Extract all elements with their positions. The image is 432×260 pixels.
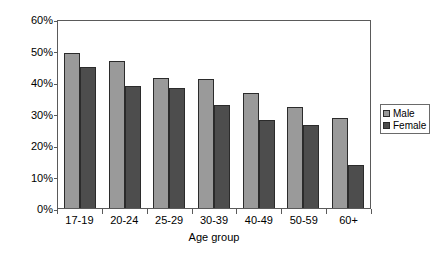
bar-male-25-29[interactable] [153, 78, 169, 208]
x-axis-tick-mark [371, 209, 372, 214]
bar-male-17-19[interactable] [64, 53, 80, 208]
y-axis-tick-label: 50% [14, 47, 58, 58]
bar-female-20-24[interactable] [125, 86, 141, 208]
legend-item-male[interactable]: Male [383, 107, 426, 119]
bar-group [58, 21, 103, 208]
x-axis-tick-label: 40-49 [236, 214, 281, 227]
bar-group [147, 21, 192, 208]
legend-swatch-icon [383, 122, 390, 129]
bar-female-40-49[interactable] [259, 120, 275, 208]
bar-male-30-39[interactable] [198, 79, 214, 208]
legend-item-female[interactable]: Female [383, 119, 426, 131]
bars-layer [58, 21, 370, 208]
x-axis-tick-label: 25-29 [147, 214, 192, 227]
x-axis-tick-label: 60+ [326, 214, 371, 227]
plot-area: Pass rate 0%10%20%30%40%50%60% [57, 20, 371, 209]
x-axis-tick-labels: 17-1920-2425-2930-3940-4950-5960+ [57, 214, 371, 227]
y-axis-tick-label: 20% [14, 141, 58, 152]
bar-female-50-59[interactable] [303, 125, 319, 208]
y-axis-tick-label: 60% [14, 15, 58, 26]
bar-group [325, 21, 370, 208]
x-axis-tick-label: 50-59 [281, 214, 326, 227]
bar-group [281, 21, 326, 208]
bar-group [192, 21, 237, 208]
bar-male-60+[interactable] [332, 118, 348, 208]
y-axis-tick-label: 0% [14, 204, 58, 215]
bar-female-25-29[interactable] [169, 88, 185, 208]
bar-female-17-19[interactable] [80, 67, 96, 208]
bar-group [236, 21, 281, 208]
legend: MaleFemale [380, 104, 430, 134]
legend-label: Male [393, 108, 415, 119]
x-axis-tick-label: 17-19 [57, 214, 102, 227]
legend-swatch-icon [383, 110, 390, 117]
bar-female-60+[interactable] [348, 165, 364, 208]
bar-male-40-49[interactable] [243, 93, 259, 208]
x-axis-tick-label: 30-39 [192, 214, 237, 227]
x-axis-tick-label: 20-24 [102, 214, 147, 227]
x-axis-title: Age group [57, 231, 371, 244]
bar-group [103, 21, 148, 208]
legend-label: Female [393, 120, 426, 131]
bar-male-50-59[interactable] [287, 107, 303, 208]
bar-female-30-39[interactable] [214, 105, 230, 208]
bar-male-20-24[interactable] [109, 61, 125, 208]
y-axis-tick-label: 10% [14, 173, 58, 184]
y-axis-tick-label: 30% [14, 110, 58, 121]
y-axis-tick-label: 40% [14, 78, 58, 89]
bar-chart: Pass rate 0%10%20%30%40%50%60% 17-1920-2… [0, 0, 432, 260]
